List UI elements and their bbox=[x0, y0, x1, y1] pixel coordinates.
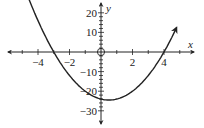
y-tick-label: −20 bbox=[80, 85, 98, 97]
x-tick-label: 4 bbox=[161, 56, 167, 68]
y-tick-label: 20 bbox=[86, 7, 98, 19]
y-tick-label: 10 bbox=[86, 26, 98, 38]
parabola-chart: −4−2242010−10−20−30 x y bbox=[0, 0, 204, 128]
x-axis-label: x bbox=[187, 38, 193, 50]
x-tick-label: 2 bbox=[130, 56, 136, 68]
x-tick-label: −2 bbox=[64, 56, 76, 68]
tick-labels: −4−2242010−10−20−30 bbox=[32, 7, 167, 117]
y-tick-label: −10 bbox=[80, 66, 98, 78]
y-tick-label: −30 bbox=[80, 105, 98, 117]
y-axis-label: y bbox=[105, 2, 111, 14]
x-tick-label: −4 bbox=[32, 56, 44, 68]
